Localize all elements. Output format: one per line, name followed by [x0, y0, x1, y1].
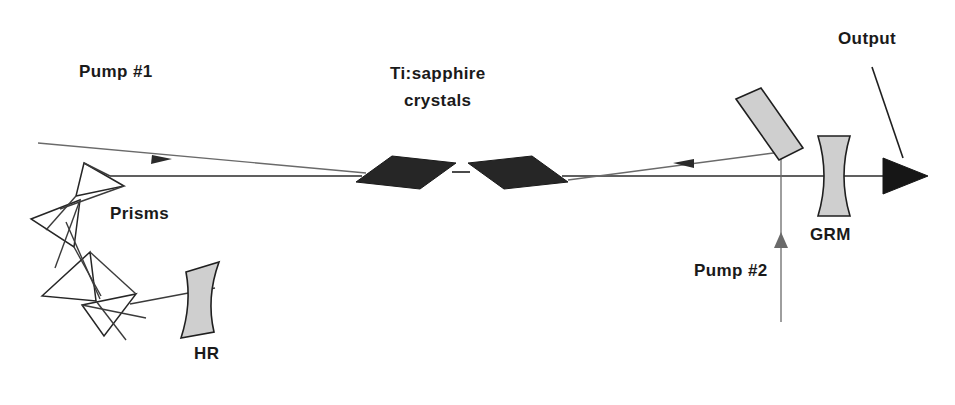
pump2-label: Pump #2: [694, 261, 768, 280]
output-label: Output: [838, 29, 896, 48]
pump-beam-1-arrowhead: [151, 155, 172, 164]
prism-1: [76, 163, 124, 196]
hr-label: HR: [194, 344, 219, 363]
dichroic-mirror-body: [736, 88, 803, 160]
pump-beam-2: [568, 152, 788, 322]
output-arrow-triangle: [883, 158, 928, 194]
prism-2: [31, 200, 80, 247]
pump-beam-1: [38, 143, 366, 173]
crystal-right: [468, 156, 568, 189]
dichroic-mirror: [736, 88, 803, 160]
output-leader: [872, 67, 903, 158]
pump-beam-2-arrowhead-left: [673, 159, 694, 168]
hr-mirror-body: [181, 262, 219, 338]
prism-ray-i: [82, 305, 146, 318]
prisms-label: Prisms: [110, 204, 169, 223]
prism-3: [42, 252, 96, 301]
pump1-label: Pump #1: [79, 62, 153, 81]
hr-mirror: [181, 262, 219, 338]
crystals-label-line1: Ti:sapphire: [390, 64, 486, 83]
output-arrowhead: [883, 158, 928, 194]
optical-layout-canvas: Pump #1 Ti:sapphire crystals Prisms HR G…: [0, 0, 955, 405]
crystal-left: [356, 156, 456, 189]
prism-ray-h: [96, 301, 126, 340]
pump-beam-1-line: [38, 143, 366, 173]
optical-cavity-diagram: Pump #1 Ti:sapphire crystals Prisms HR G…: [0, 0, 955, 405]
crystals-label-line2: crystals: [404, 91, 471, 110]
grm-label: GRM: [810, 225, 851, 244]
pump-beam-2-arrowhead-up: [774, 232, 788, 248]
prism-ray-f: [66, 222, 100, 299]
prism-ray-a: [84, 163, 110, 176]
output-leader-line: [872, 67, 903, 158]
